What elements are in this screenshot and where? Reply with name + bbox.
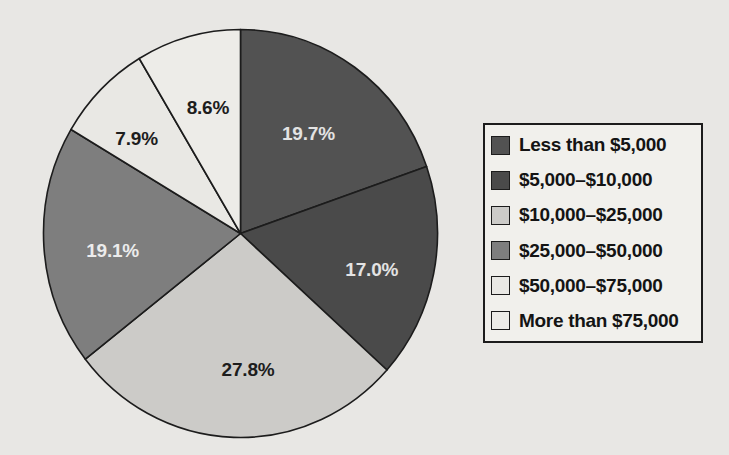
legend-item-25000-50000: $25,000–$50,000 (485, 234, 701, 268)
pie-slice-label-2: 17.0% (345, 259, 398, 280)
legend-label: $10,000–$25,000 (519, 204, 662, 226)
pie-slice-label-1: 19.7% (282, 123, 335, 144)
legend-item-less-than-5000: Less than $5,000 (485, 128, 701, 162)
legend-swatch-icon (491, 171, 510, 190)
pie-chart: 19.7%17.0%27.8%19.1%7.9%8.6% (0, 0, 465, 455)
legend-label: Less than $5,000 (519, 134, 666, 156)
pie-slice-label-3: 27.8% (222, 359, 275, 380)
legend-item-more-than-75000: More than $75,000 (485, 304, 701, 338)
pie-slice-label-4: 19.1% (86, 240, 139, 261)
pie-slice-label-5: 7.9% (115, 128, 158, 149)
legend-label: $5,000–$10,000 (519, 169, 652, 191)
legend-swatch-icon (491, 241, 510, 260)
legend-label: $25,000–$50,000 (519, 240, 662, 262)
legend-item-50000-75000: $50,000–$75,000 (485, 269, 701, 303)
income-pie-chart-figure: 19.7%17.0%27.8%19.1%7.9%8.6% Less than $… (0, 0, 729, 455)
pie-slice-label-6: 8.6% (187, 97, 230, 118)
legend-swatch-icon (491, 206, 510, 225)
legend-swatch-icon (491, 311, 510, 330)
legend-item-10000-25000: $10,000–$25,000 (485, 198, 701, 232)
legend-swatch-icon (491, 276, 510, 295)
legend-swatch-icon (491, 136, 510, 155)
legend-label: More than $75,000 (519, 310, 679, 332)
legend: Less than $5,000 $5,000–$10,000 $10,000–… (483, 123, 703, 343)
legend-label: $50,000–$75,000 (519, 275, 662, 297)
legend-item-5000-10000: $5,000–$10,000 (485, 163, 701, 197)
